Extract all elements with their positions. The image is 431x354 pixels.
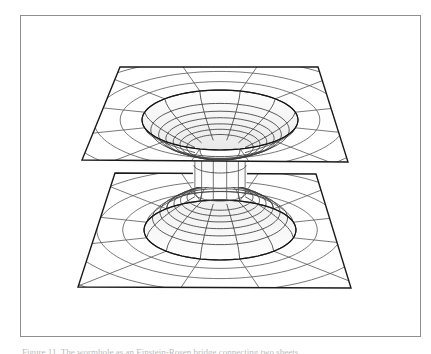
figure-caption: Figure 11. The wormhole as an Einstein-R… <box>22 347 422 354</box>
wormhole-diagram <box>20 15 421 337</box>
figure-root: Figure 11. The wormhole as an Einstein-R… <box>0 0 431 354</box>
